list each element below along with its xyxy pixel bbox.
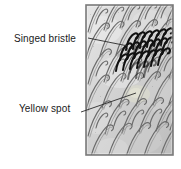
micrograph-panel-hotspot[interactable] <box>86 5 173 155</box>
annotation-label-singed-bristle: Singed bristle <box>14 33 76 44</box>
annotation-label-yellow-spot: Yellow spot <box>19 103 70 114</box>
